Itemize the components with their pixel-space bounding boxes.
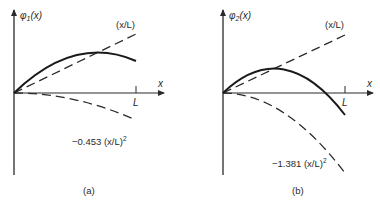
y-axis-label-b: φ2(x) [229,10,251,22]
y-axis-label-a: φ1(x) [20,10,42,22]
panel-caption-a: (a) [83,185,95,196]
mode-shape-curve-b [223,69,345,115]
linear-term-line-b [223,35,345,93]
linear-term-label-a: (x/L) [116,19,135,30]
panel-a: φ1(x) x L (x/L) −0.453 (x/L)2 (a) [14,10,164,196]
tick-label-L-a: L [133,97,139,108]
x-axis-label-a: x [157,78,164,89]
x-axis-label-b: x [366,78,373,89]
quadratic-term-label-b: −1.381 (x/L)2 [272,157,327,169]
figure-canvas: φ1(x) x L (x/L) −0.453 (x/L)2 (a) φ2(x) … [0,0,380,201]
quadratic-term-label-a: −0.453 (x/L)2 [72,135,127,147]
quadratic-term-curve-a [14,93,136,120]
panel-caption-b: (b) [292,185,304,196]
tick-label-L-b: L [342,97,348,108]
mode-shape-curve-a [14,53,136,93]
linear-term-label-b: (x/L) [325,19,344,30]
panel-b: φ2(x) x L (x/L) −1.381 (x/L)2 (b) [223,10,373,196]
linear-term-line-a [14,34,136,93]
